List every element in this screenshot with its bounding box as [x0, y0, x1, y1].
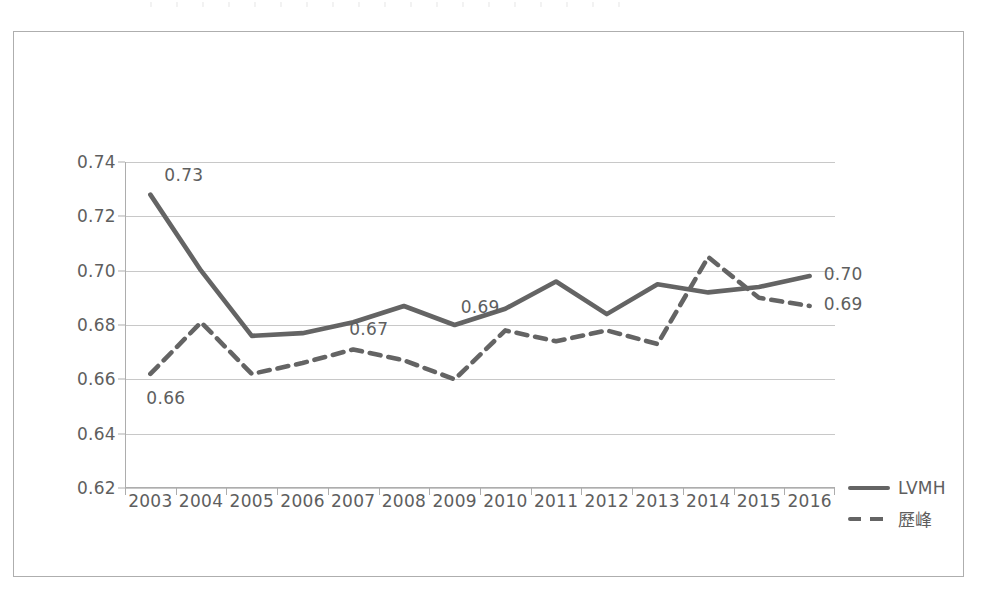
x-axis-tick-label: 2016 — [784, 491, 835, 521]
y-axis-tick-mark — [118, 216, 125, 217]
x-axis-tick-label: 2004 — [176, 491, 227, 521]
x-axis-tick-label: 2007 — [328, 491, 379, 521]
legend-key-solid-line-icon — [847, 481, 891, 495]
data-point-label: 0.67 — [349, 319, 388, 339]
legend-key-dashed-line-icon — [847, 512, 891, 526]
y-axis-tick-label: 0.62 — [77, 478, 116, 498]
y-axis-tick-label: 0.70 — [77, 261, 116, 281]
y-axis-tick-mark — [118, 379, 125, 380]
x-axis-tick-label: 2011 — [531, 491, 582, 521]
plot-area: 0.740.720.700.680.660.640.62 0.730.660.6… — [125, 162, 835, 488]
legend-label-richemont: 歷峰 — [898, 506, 933, 531]
y-axis-tick-label: 0.72 — [77, 206, 116, 226]
x-axis-tick-labels: 2003200420052006200720082009201020112012… — [125, 491, 835, 521]
legend-item-richemont[interactable]: 歷峰 — [847, 503, 967, 534]
series-plot-lines — [125, 162, 835, 488]
x-axis-tick-label: 2014 — [683, 491, 734, 521]
y-axis-tick-mark — [118, 433, 125, 434]
x-axis-tick-label: 2013 — [632, 491, 683, 521]
y-axis-tick-mark — [118, 325, 125, 326]
legend-item-lvmh[interactable]: LVMH — [847, 472, 967, 503]
data-point-label: 0.70 — [824, 264, 863, 284]
chart-legend: LVMH 歷峰 — [847, 472, 967, 534]
x-axis-tick-label: 2003 — [125, 491, 176, 521]
y-axis-tick-label: 0.64 — [77, 424, 116, 444]
data-point-label: 0.69 — [461, 297, 500, 317]
legend-label-lvmh: LVMH — [898, 478, 946, 498]
y-axis-tick-label: 0.74 — [77, 152, 116, 172]
x-axis-tick-label: 2006 — [277, 491, 328, 521]
x-axis-tick-label: 2015 — [734, 491, 785, 521]
y-axis-tick-mark — [118, 270, 125, 271]
y-axis-tick-label: 0.68 — [77, 315, 116, 335]
data-point-label: 0.69 — [824, 294, 863, 314]
scan-artifact-line — [150, 2, 620, 7]
data-point-label: 0.73 — [164, 165, 203, 185]
y-axis-tick-mark — [118, 488, 125, 489]
x-axis-tick-label: 2012 — [581, 491, 632, 521]
y-axis-tick-label: 0.66 — [77, 369, 116, 389]
x-axis-tick-label: 2009 — [429, 491, 480, 521]
x-axis-tick-label: 2008 — [379, 491, 430, 521]
y-axis-tick-mark — [118, 162, 125, 163]
x-axis-tick-label: 2005 — [226, 491, 277, 521]
x-axis-tick-label: 2010 — [480, 491, 531, 521]
data-point-label: 0.66 — [146, 388, 185, 408]
chart-figure-frame: 0.740.720.700.680.660.640.62 0.730.660.6… — [13, 31, 964, 577]
